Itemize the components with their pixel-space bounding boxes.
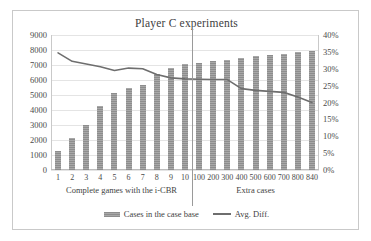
line-series-avg-diff (51, 35, 319, 170)
chart-legend: Cases in the case base Avg. Diff. (13, 209, 360, 219)
x-axis-tick-label: 3 (84, 173, 88, 182)
x-axis-tick-label: 800 (292, 173, 304, 182)
y-axis-right-tick-label: 30% (323, 64, 339, 74)
y-axis-left-tick-label: 1000 (30, 150, 47, 160)
y-axis-left-tick-label: 7000 (30, 60, 47, 70)
y-axis-left-tick-label: 5000 (30, 90, 47, 100)
y-axis-right-tick-label: 10% (323, 131, 339, 141)
y-axis-left-tick-label: 6000 (30, 75, 47, 85)
x-axis-tick-label: 400 (235, 173, 247, 182)
y-axis-right-tick-label: 25% (323, 81, 339, 91)
x-axis-tick-label: 2 (70, 173, 74, 182)
y-axis-left-tick-label: 0 (43, 165, 47, 175)
y-axis-right-tick-label: 35% (323, 47, 339, 57)
x-axis-tick-label: 4 (98, 173, 102, 182)
x-axis-tick-label: 600 (264, 173, 276, 182)
legend-item-avg-diff: Avg. Diff. (213, 209, 269, 219)
x-axis-group-label: Complete games with the i-CBR (66, 185, 177, 195)
plot-area: 0100020003000400050006000700080009000 0%… (51, 35, 319, 170)
x-axis-tick-label: 300 (221, 173, 233, 182)
y-axis-left-tick-label: 3000 (30, 120, 47, 130)
x-axis-tick-label: 9 (169, 173, 173, 182)
y-axis-left-tick-label: 8000 (30, 45, 47, 55)
bar-swatch-icon (104, 212, 120, 217)
x-axis-tick-label: 5 (112, 173, 116, 182)
y-axis-right-tick-label: 20% (323, 98, 339, 108)
legend-label: Avg. Diff. (235, 209, 269, 219)
legend-item-cases-in-the-case-base: Cases in the case base (104, 209, 199, 219)
x-axis-tick-label: 7 (141, 173, 145, 182)
line-swatch-icon (213, 213, 231, 215)
y-axis-right-tick-label: 40% (323, 30, 339, 40)
avg-diff-polyline (58, 53, 312, 103)
x-axis-tick-label: 700 (278, 173, 290, 182)
gridline (51, 170, 319, 171)
x-axis-tick-label: 500 (250, 173, 262, 182)
x-axis-group-label: Extra cases (236, 185, 274, 195)
legend-label: Cases in the case base (124, 209, 199, 219)
x-axis-tick-label: 1 (56, 173, 60, 182)
chart-container: Player C experiments 0100020003000400050… (12, 10, 359, 230)
y-axis-left-tick-label: 4000 (30, 105, 47, 115)
y-axis-right-tick-label: 5% (323, 148, 334, 158)
x-axis-tick-label: 8 (155, 173, 159, 182)
y-axis-left-tick-label: 2000 (30, 135, 47, 145)
y-axis-right-tick-label: 15% (323, 114, 339, 124)
x-axis-tick-label: 6 (127, 173, 131, 182)
x-axis-tick-label: 10 (181, 173, 189, 182)
y-axis-right-tick-label: 0% (323, 165, 334, 175)
x-axis-tick-label: 200 (207, 173, 219, 182)
y-axis-left-tick-label: 9000 (30, 30, 47, 40)
chart-title: Player C experiments (13, 17, 360, 29)
x-axis-tick-label: 840 (306, 173, 318, 182)
x-axis-tick-label: 100 (193, 173, 205, 182)
